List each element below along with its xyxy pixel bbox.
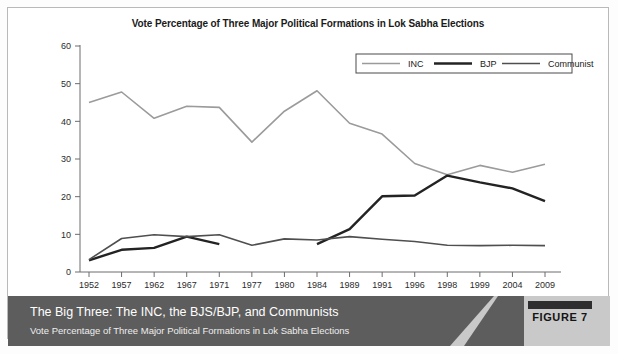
x-tick-label: 1999 [470, 280, 490, 290]
legend-label-communist: Communist [548, 59, 594, 69]
figure-badge-bar [528, 301, 592, 309]
x-tick-label: 1980 [274, 280, 294, 290]
x-tick-label: 2009 [535, 280, 555, 290]
series-line-inc [89, 91, 545, 175]
legend-label-inc: INC [408, 59, 424, 69]
chart-area: Vote Percentage of Three Major Political… [8, 8, 608, 293]
y-tick-label: 30 [61, 154, 71, 164]
figure-root: Vote Percentage of Three Major Political… [0, 0, 618, 354]
x-tick-label: 1967 [177, 280, 197, 290]
x-tick-label: 1977 [242, 280, 262, 290]
line-chart-plot: 0102030405060195219571962196719711977198… [8, 8, 608, 293]
x-tick-label: 1984 [307, 280, 327, 290]
x-tick-label: 1962 [144, 280, 164, 290]
caption-title: The Big Three: The INC, the BJS/BJP, and… [30, 305, 338, 319]
x-tick-label: 1989 [340, 280, 360, 290]
x-tick-label: 1971 [209, 280, 229, 290]
figure-number-badge: FIGURE 7 [524, 301, 596, 323]
legend-label-bjp: BJP [480, 59, 497, 69]
x-tick-label: 1991 [372, 280, 392, 290]
y-tick-label: 50 [61, 79, 71, 89]
y-tick-label: 0 [66, 267, 71, 277]
figure-badge-label: FIGURE 7 [524, 311, 596, 323]
x-tick-label: 1998 [437, 280, 457, 290]
x-tick-label: 1952 [79, 280, 99, 290]
x-tick-label: 1996 [405, 280, 425, 290]
caption-subtitle: Vote Percentage of Three Major Political… [30, 325, 349, 336]
x-tick-label: 2004 [502, 280, 522, 290]
series-line-bjp [89, 237, 219, 261]
y-tick-label: 40 [61, 117, 71, 127]
series-line-bjp [317, 176, 545, 245]
y-tick-label: 60 [61, 41, 71, 51]
x-tick-label: 1957 [112, 280, 132, 290]
y-tick-label: 10 [61, 230, 71, 240]
y-tick-label: 20 [61, 192, 71, 202]
figure-caption-bar: The Big Three: The INC, the BJS/BJP, and… [8, 296, 610, 346]
